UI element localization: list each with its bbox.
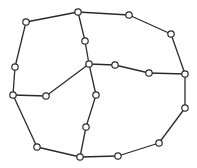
- edge-R-S: [86, 95, 96, 127]
- edge-D-E: [171, 34, 185, 74]
- edge-S-I: [80, 127, 86, 157]
- edge-B-M: [78, 12, 85, 41]
- edge-H-I: [80, 156, 118, 157]
- edge-J-K: [13, 95, 37, 147]
- graph-diagram: [0, 0, 197, 168]
- edge-C-D: [129, 15, 171, 34]
- node-G: [156, 140, 162, 146]
- node-R: [93, 92, 99, 98]
- node-P: [146, 70, 152, 76]
- edge-I-J: [37, 147, 80, 157]
- edge-N-O: [89, 64, 115, 65]
- node-F: [182, 105, 188, 111]
- node-H: [115, 153, 121, 159]
- edge-P-E: [149, 73, 185, 74]
- node-B: [75, 9, 81, 15]
- edge-A-B: [26, 12, 78, 22]
- node-C: [126, 12, 132, 18]
- edge-F-G: [159, 108, 185, 143]
- edge-N-Q: [46, 64, 89, 96]
- node-Q: [43, 93, 49, 99]
- edge-L-A: [15, 22, 26, 67]
- edge-B-C: [78, 12, 129, 15]
- node-J: [34, 144, 40, 150]
- node-S: [83, 124, 89, 130]
- edge-K-L: [13, 67, 15, 95]
- node-E: [182, 71, 188, 77]
- node-M: [82, 38, 88, 44]
- edge-N-R: [89, 64, 96, 95]
- graph-edges: [13, 12, 185, 157]
- edge-O-P: [115, 65, 149, 73]
- node-A: [23, 19, 29, 25]
- node-D: [168, 31, 174, 37]
- node-I: [77, 154, 83, 160]
- edge-G-H: [118, 143, 159, 156]
- node-O: [112, 62, 118, 68]
- edge-Q-K: [13, 95, 46, 96]
- node-N: [86, 61, 92, 67]
- node-L: [12, 64, 18, 70]
- node-K: [10, 92, 16, 98]
- graph-nodes: [10, 9, 188, 160]
